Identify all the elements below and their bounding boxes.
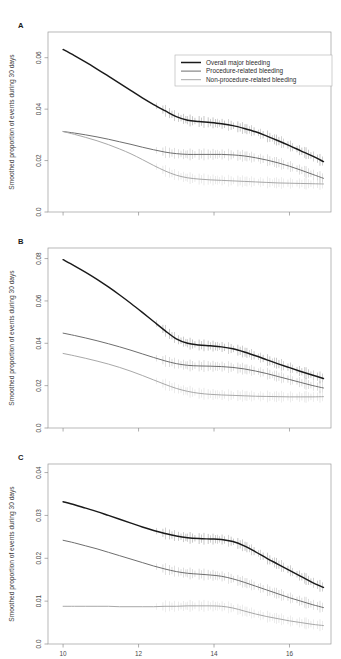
y-tick-label-b-2: 0.04 (35, 337, 42, 350)
y-tick-label-a-0: 0.0 (35, 207, 42, 216)
panel-letter-c: C (18, 453, 24, 462)
legend-label-0: Overall major bleeding (206, 59, 270, 67)
panel-letter-b: B (18, 237, 24, 246)
y-tick-label-a-2: 0.04 (35, 102, 42, 115)
legend-label-2: Non-procedure-related bleeding (206, 76, 297, 84)
x-tick-label-0: 10 (60, 650, 68, 657)
legend-label-1: Procedure-related bleeding (206, 67, 284, 75)
figure-container: ASmoothed proportion of events during 30… (0, 0, 341, 659)
y-axis-title-b: Smoothed proportion of events during 30 … (8, 270, 16, 406)
x-tick-label-3: 16 (286, 650, 294, 657)
y-axis-title-c: Smoothed proportion of events during 30 … (8, 486, 16, 622)
figure-background (0, 0, 341, 659)
x-tick-label-2: 14 (210, 650, 218, 657)
y-tick-label-a-3: 0.06 (35, 51, 42, 64)
bleeding-proportion-figure: ASmoothed proportion of events during 30… (0, 0, 341, 659)
y-tick-label-b-0: 0.0 (35, 423, 42, 432)
y-axis-title-a: Smoothed proportion of events during 30 … (8, 54, 16, 190)
y-tick-label-c-0: 0.0 (35, 639, 42, 648)
y-tick-label-b-3: 0.06 (35, 294, 42, 307)
y-tick-label-c-3: 0.03 (35, 509, 42, 522)
y-tick-label-c-2: 0.02 (35, 552, 42, 565)
legend: Overall major bleedingProcedure-related … (175, 55, 332, 86)
y-tick-label-b-4: 0.08 (35, 252, 42, 265)
y-tick-label-b-1: 0.02 (35, 379, 42, 392)
y-tick-label-c-1: 0.01 (35, 594, 42, 607)
y-tick-label-c-4: 0.04 (35, 466, 42, 479)
y-tick-label-a-1: 0.02 (35, 154, 42, 167)
x-tick-label-1: 12 (135, 650, 143, 657)
panel-letter-a: A (18, 21, 24, 30)
